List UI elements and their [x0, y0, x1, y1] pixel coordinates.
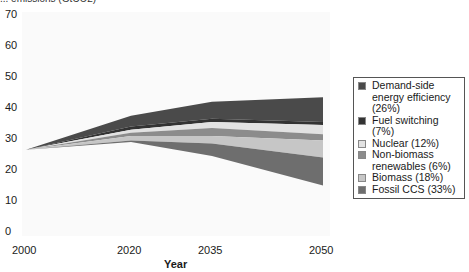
legend-item: Fossil CCS (33%) [358, 184, 460, 196]
legend-label: Biomass (18%) [372, 172, 443, 184]
legend-item: Fuel switching (7%) [358, 115, 460, 138]
legend: Demand-side energy efficiency (26%)Fuel … [353, 77, 465, 199]
legend-label: Non-biomass renewables (6%) [372, 149, 460, 172]
y-tick-label: 20 [5, 163, 17, 175]
legend-swatch-icon [358, 186, 366, 194]
legend-swatch-icon [358, 151, 366, 159]
x-tick-label: 2050 [309, 244, 333, 256]
x-tick-label: 2000 [12, 244, 36, 256]
legend-label: Fuel switching (7%) [372, 115, 460, 138]
legend-item: Demand-side energy efficiency (26%) [358, 80, 460, 115]
y-tick-label: 10 [5, 194, 17, 206]
x-tick-label: 2020 [117, 244, 141, 256]
y-tick-label: 30 [5, 132, 17, 144]
legend-item: Biomass (18%) [358, 172, 460, 184]
legend-label: Fossil CCS (33%) [372, 184, 455, 196]
legend-swatch-icon [358, 174, 366, 182]
y-tick-label: 0 [5, 225, 11, 237]
y-tick-label: 50 [5, 70, 17, 82]
legend-item: Non-biomass renewables (6%) [358, 149, 460, 172]
legend-swatch-icon [358, 117, 366, 125]
x-axis-label: Year [164, 258, 187, 270]
y-tick-label: 70 [5, 8, 17, 20]
legend-swatch-icon [358, 82, 366, 90]
y-tick-label: 40 [5, 101, 17, 113]
legend-swatch-icon [358, 140, 366, 148]
x-tick-label: 2035 [198, 244, 222, 256]
legend-label: Demand-side energy efficiency (26%) [372, 80, 460, 115]
y-tick-label: 60 [5, 39, 17, 51]
